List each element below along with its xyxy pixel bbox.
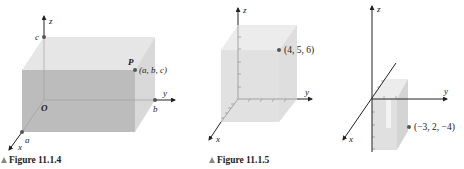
z-axis-label: z xyxy=(376,4,381,14)
caption-triangle-icon xyxy=(1,157,7,163)
box-front-face xyxy=(22,70,135,132)
y-axis-label: y xyxy=(162,88,167,98)
x-axis-label: x xyxy=(17,142,22,152)
figure-caption: Figure 11.1.5 xyxy=(217,155,270,165)
figure-caption: Figure 11.1.4 xyxy=(9,155,62,165)
point-coords: (4, 5, 6) xyxy=(284,45,314,56)
z-axis-label: z xyxy=(48,16,53,26)
b-dot xyxy=(153,98,157,102)
point-dot xyxy=(407,125,411,129)
a-label: a xyxy=(25,135,30,145)
y-axis-label: y xyxy=(443,86,448,96)
figures-canvas: z y x c b a O P (a, b, c) Figure 11.1.4 xyxy=(0,0,464,169)
point-coords: (−3, 2, −4) xyxy=(414,122,455,133)
figure-11-1-5: z y x (4, 5, 6) Figure 11.1.5 xyxy=(209,5,314,165)
caption-triangle-icon xyxy=(209,157,215,163)
cube-front-face xyxy=(221,50,279,122)
point-p-coords: (a, b, c) xyxy=(139,65,167,75)
box-front-face xyxy=(372,99,397,150)
y-axis-label: y xyxy=(304,87,309,97)
z-axis-label: z xyxy=(242,5,247,15)
x-axis-label: x xyxy=(348,134,353,144)
a-dot xyxy=(20,130,24,134)
point-p-dot xyxy=(133,68,137,72)
origin-label: O xyxy=(41,103,48,113)
box-top-face xyxy=(22,37,155,70)
c-label: c xyxy=(35,32,39,42)
b-label: b xyxy=(153,104,158,114)
point-p-name: P xyxy=(128,57,134,67)
point-dot xyxy=(277,48,281,52)
x-axis-label: x xyxy=(215,134,220,144)
figure-point-negative: z y x (−3, 2, −4) xyxy=(343,4,455,152)
c-dot xyxy=(42,35,46,39)
figure-11-1-4: z y x c b a O P (a, b, c) Figure 11.1.4 xyxy=(1,16,175,165)
